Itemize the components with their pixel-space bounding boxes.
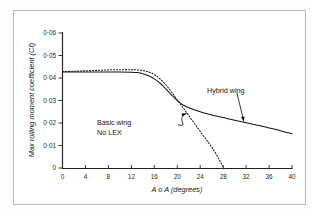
y-axis-title: Max rolling moment coefficient (Cℓ) bbox=[27, 42, 36, 157]
chart-canvas: 0·06 0·05 0·04 0·03 0·02 0·01 0 0 4 8 bbox=[0, 0, 315, 219]
series-basic-wing-curve bbox=[63, 70, 224, 167]
y-tick-label-3: 0·03 bbox=[43, 97, 56, 104]
x-tick-label-2: 8 bbox=[107, 173, 111, 180]
x-tick-label-0: 0 bbox=[61, 173, 65, 180]
annotation-hybrid-wing: Hybrid wing bbox=[207, 86, 245, 121]
y-axis-tick-labels: 0·06 0·05 0·04 0·03 0·02 0·01 0 bbox=[43, 29, 56, 171]
y-tick-label-0: 0·06 bbox=[43, 29, 56, 36]
x-tick-label-1: 4 bbox=[84, 173, 88, 180]
x-tick-label-10: 40 bbox=[288, 173, 296, 180]
y-tick-label-2: 0·04 bbox=[43, 74, 56, 81]
x-tick-label-6: 24 bbox=[197, 173, 205, 180]
x-tick-label-4: 16 bbox=[151, 173, 159, 180]
y-tick-label-5: 0·01 bbox=[43, 142, 56, 149]
x-tick-label-8: 32 bbox=[243, 173, 251, 180]
figure-root: 0·06 0·05 0·04 0·03 0·02 0·01 0 0 4 8 bbox=[0, 0, 315, 219]
x-tick-label-5: 20 bbox=[174, 173, 182, 180]
x-axis-title: A o A (degrees) bbox=[151, 185, 203, 194]
hybrid-wing-label: Hybrid wing bbox=[207, 86, 245, 95]
x-tick-label-7: 28 bbox=[220, 173, 228, 180]
basic-wing-label-line1: Basic wing bbox=[97, 118, 131, 127]
x-tick-label-9: 36 bbox=[266, 173, 274, 180]
basic-wing-label-line2: No LEX bbox=[97, 128, 122, 137]
y-axis-ticks bbox=[59, 33, 63, 168]
y-tick-label-6: 0 bbox=[52, 164, 56, 171]
x-tick-label-3: 12 bbox=[128, 173, 136, 180]
annotation-basic-wing: Basic wing No LEX bbox=[97, 113, 186, 136]
y-tick-label-1: 0·05 bbox=[43, 52, 56, 59]
x-axis-tick-labels: 0 4 8 12 16 20 24 28 32 36 40 bbox=[61, 173, 296, 180]
y-tick-label-4: 0·02 bbox=[43, 119, 56, 126]
